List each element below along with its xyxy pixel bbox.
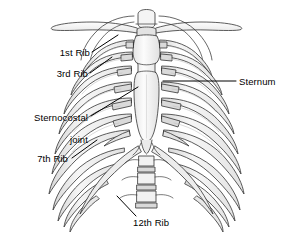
label-sternocostal-joint-line2: joint <box>70 134 88 145</box>
label-sternum: Sternum <box>239 76 291 87</box>
label-first-rib: 1st Rib <box>42 47 90 58</box>
label-sternocostal-joint: Sternocostal joint <box>12 101 88 156</box>
label-sternocostal-joint-line1: Sternocostal <box>34 112 88 123</box>
leader-twelfth-rib <box>117 196 136 216</box>
label-third-rib: 3rd Rib <box>40 68 88 79</box>
label-seventh-rib: 7th Rib <box>20 153 68 164</box>
lumbar-vertebrae <box>120 156 173 208</box>
label-twelfth-rib: 12th Rib <box>133 217 187 228</box>
sternum-bone <box>133 35 160 154</box>
anatomy-figure: 1st Rib 3rd Rib Sternocostal joint 7th R… <box>0 0 293 238</box>
